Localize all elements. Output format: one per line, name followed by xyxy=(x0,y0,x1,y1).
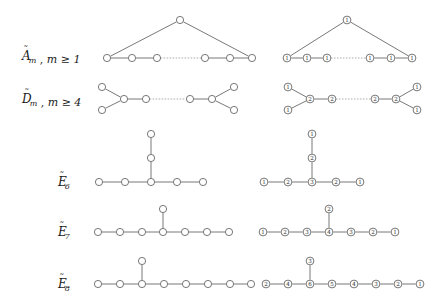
node[interactable]: 1 xyxy=(408,54,416,62)
node[interactable] xyxy=(120,95,127,102)
node[interactable] xyxy=(98,83,105,90)
node[interactable]: 2 xyxy=(262,280,270,288)
node[interactable] xyxy=(173,178,180,185)
node[interactable] xyxy=(247,280,254,287)
node[interactable] xyxy=(230,83,237,90)
node[interactable]: 1 xyxy=(343,16,351,24)
node[interactable] xyxy=(199,178,206,185)
node[interactable]: 2 xyxy=(325,205,333,213)
node[interactable]: 2 xyxy=(306,95,314,103)
node-circle xyxy=(159,228,166,235)
node[interactable]: 3 xyxy=(306,257,314,265)
node[interactable]: 1 xyxy=(284,83,292,91)
node[interactable]: 1 xyxy=(413,106,421,114)
node[interactable]: 2 xyxy=(369,228,377,236)
node[interactable]: 1 xyxy=(259,228,267,236)
node[interactable] xyxy=(116,280,123,287)
node[interactable] xyxy=(203,228,210,235)
node-mark-label: 2 xyxy=(283,229,287,235)
node-circle xyxy=(147,178,154,185)
node[interactable] xyxy=(153,54,160,61)
node[interactable]: 3 xyxy=(372,280,380,288)
node[interactable]: 2 xyxy=(392,95,400,103)
node[interactable] xyxy=(138,257,145,264)
node[interactable]: 1 xyxy=(391,228,399,236)
node[interactable]: 3 xyxy=(303,228,311,236)
node[interactable]: 1 xyxy=(323,54,331,62)
node[interactable] xyxy=(208,95,215,102)
node[interactable]: 4 xyxy=(350,280,358,288)
node-circle xyxy=(248,54,255,61)
node[interactable] xyxy=(230,106,237,113)
node[interactable] xyxy=(186,95,193,102)
node-circle xyxy=(147,154,154,161)
node[interactable] xyxy=(226,280,233,287)
node-mark-label: 4 xyxy=(327,229,331,235)
node[interactable]: 4 xyxy=(284,280,292,288)
node[interactable]: 5 xyxy=(328,280,336,288)
node[interactable]: 1 xyxy=(387,54,395,62)
node[interactable]: 2 xyxy=(284,178,292,186)
node[interactable]: 3 xyxy=(347,228,355,236)
node-mark-label: 2 xyxy=(394,96,398,102)
node-circle xyxy=(182,280,189,287)
node-mark-label: 1 xyxy=(261,229,265,235)
node-mark-label: 1 xyxy=(368,55,372,61)
node[interactable] xyxy=(95,178,102,185)
node[interactable] xyxy=(138,280,145,287)
node-mark-label: 1 xyxy=(345,17,349,23)
node[interactable] xyxy=(248,54,255,61)
node-circle xyxy=(116,280,123,287)
node[interactable]: 2 xyxy=(394,280,402,288)
node[interactable] xyxy=(176,16,183,23)
node-circle xyxy=(201,54,208,61)
node[interactable] xyxy=(182,280,189,287)
node[interactable]: 2 xyxy=(371,95,379,103)
node-mark-label: 4 xyxy=(286,281,290,287)
node[interactable]: 1 xyxy=(366,54,374,62)
node[interactable] xyxy=(225,228,232,235)
node[interactable]: 1 xyxy=(416,280,424,288)
node[interactable]: 2 xyxy=(281,228,289,236)
node[interactable]: 2 xyxy=(308,154,316,162)
node[interactable] xyxy=(226,54,233,61)
node[interactable]: 2 xyxy=(332,178,340,186)
node[interactable] xyxy=(94,228,101,235)
node[interactable]: 1 xyxy=(413,83,421,91)
node[interactable] xyxy=(138,228,145,235)
node[interactable] xyxy=(159,205,166,212)
node[interactable] xyxy=(121,178,128,185)
node-mark-label: 2 xyxy=(371,229,375,235)
node[interactable] xyxy=(128,54,135,61)
node[interactable]: 2 xyxy=(328,95,336,103)
node-circle xyxy=(94,228,101,235)
node[interactable] xyxy=(201,54,208,61)
node-circle xyxy=(94,280,101,287)
node[interactable]: 3 xyxy=(308,178,316,186)
node[interactable] xyxy=(147,130,154,137)
node[interactable] xyxy=(94,280,101,287)
node-circle xyxy=(142,95,149,102)
node[interactable]: 1 xyxy=(356,178,364,186)
node[interactable] xyxy=(103,54,110,61)
node[interactable]: 1 xyxy=(283,54,291,62)
node[interactable] xyxy=(159,228,166,235)
node[interactable]: 1 xyxy=(260,178,268,186)
node[interactable] xyxy=(147,154,154,161)
node[interactable]: 1 xyxy=(308,130,316,138)
node[interactable]: 1 xyxy=(284,106,292,114)
node[interactable] xyxy=(116,228,123,235)
node-mark-label: 3 xyxy=(349,229,353,235)
node[interactable] xyxy=(204,280,211,287)
node[interactable]: 6 xyxy=(306,280,314,288)
node-mark-label: 2 xyxy=(373,96,377,102)
node[interactable]: 1 xyxy=(303,54,311,62)
node[interactable] xyxy=(98,106,105,113)
node[interactable]: 4 xyxy=(325,228,333,236)
node-mark-label: 4 xyxy=(352,281,356,287)
node[interactable] xyxy=(160,280,167,287)
node-mark-label: 1 xyxy=(262,179,266,185)
node[interactable] xyxy=(142,95,149,102)
node[interactable] xyxy=(181,228,188,235)
node[interactable] xyxy=(147,178,154,185)
